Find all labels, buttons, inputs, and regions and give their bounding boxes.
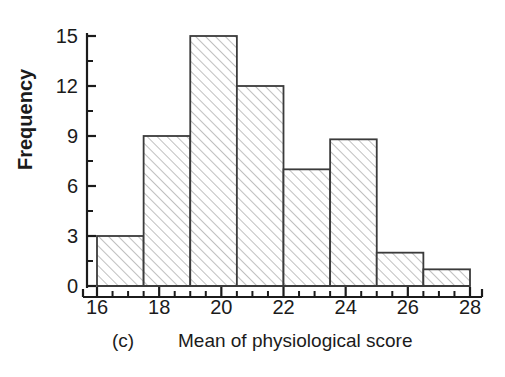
histogram-bar	[423, 269, 470, 286]
histogram-bar	[237, 86, 284, 286]
histogram-bar	[190, 36, 237, 286]
histogram-bar	[284, 169, 331, 286]
figure-panel: Frequency 03691215 16182022242628 (c) Me…	[0, 0, 505, 377]
histogram-bar	[330, 139, 377, 286]
histogram-bar	[144, 136, 191, 286]
histogram-bar	[97, 236, 144, 286]
x-axis-title: Mean of physiological score	[178, 330, 412, 352]
histogram-bar	[377, 253, 424, 286]
histogram-bars	[97, 36, 470, 286]
figure-caption: (c) Mean of physiological score	[0, 330, 505, 360]
panel-tag: (c)	[112, 330, 134, 352]
histogram-plot	[0, 0, 505, 377]
